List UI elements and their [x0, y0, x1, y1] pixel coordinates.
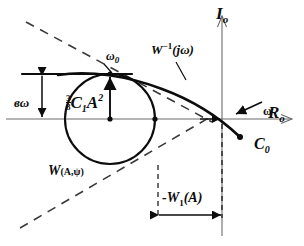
marker-curve-endpoint	[237, 134, 243, 140]
imaginary-axis-label: Io	[216, 5, 228, 25]
amplitude-formula-label: 38C1A2	[66, 93, 103, 114]
fraction-three-eighths: 38	[66, 94, 71, 112]
diagram-svg	[0, 0, 304, 246]
c-zero-label: C0	[254, 136, 270, 155]
figure-canvas: Io Ro W−1(jω) ω0 ω C0 вω 38C1A2 W(A,ψ) -…	[0, 0, 304, 246]
marker-circle-right-intersection	[152, 116, 157, 121]
marker-circle-center	[107, 116, 112, 121]
neg-w-dimension-label: -W1(A)	[162, 191, 202, 208]
inverse-curve-label: W−1(jω)	[151, 42, 194, 56]
omega-zero-label: ω0	[106, 50, 119, 65]
marker-tangency-point	[108, 72, 113, 77]
describing-function-label: W(A,ψ)	[48, 164, 84, 178]
axis-real	[6, 115, 292, 124]
inverse-curve-leader-line	[176, 62, 186, 80]
omega-direction-arrow	[236, 102, 262, 114]
omega-direction-label: ω	[263, 105, 272, 117]
delta-omega-label: вω	[14, 96, 29, 109]
dashed-asymptote-upper	[26, 22, 212, 122]
